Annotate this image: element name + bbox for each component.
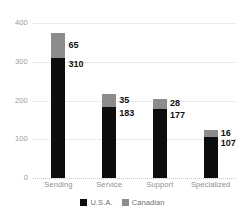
y-tick-label-200: 200 <box>15 97 28 105</box>
gridline-baseline-0 <box>33 178 236 179</box>
bar-segment-canadian[interactable] <box>153 99 167 110</box>
legend-item-usa[interactable]: U.S.A. <box>80 199 112 207</box>
legend-swatch-canadian-icon <box>122 199 129 206</box>
bar-segment-canadian[interactable] <box>102 94 116 108</box>
data-label-canadian-specialized: 16 <box>221 129 231 138</box>
bar-group-support[interactable] <box>153 99 167 178</box>
bar-segment-usa[interactable] <box>51 58 65 178</box>
gridline-400 <box>33 23 236 24</box>
bar-group-sending[interactable] <box>51 33 65 178</box>
bar-segment-usa[interactable] <box>102 107 116 178</box>
y-tick-label-100: 100 <box>15 136 28 144</box>
bar-group-specialized[interactable] <box>204 130 218 178</box>
bar-segment-usa[interactable] <box>204 137 218 178</box>
data-label-canadian-service: 35 <box>119 96 129 105</box>
legend-item-canadian[interactable]: Canadian <box>122 199 165 207</box>
y-tick-label-400: 400 <box>15 19 28 27</box>
y-tick-label-0: 0 <box>24 174 28 182</box>
bar-segment-canadian[interactable] <box>51 33 65 58</box>
data-label-usa-sending: 310 <box>68 60 83 69</box>
legend-label-usa: U.S.A. <box>90 199 112 207</box>
x-axis: Sending Service Support Specialized <box>33 181 236 195</box>
legend-label-canadian: Canadian <box>132 199 165 207</box>
legend-swatch-usa-icon <box>80 199 87 206</box>
bar-chart: 400 300 200 100 0 65 310 35 <box>0 0 245 219</box>
y-axis: 400 300 200 100 0 <box>0 23 28 178</box>
x-tick-label-support: Support <box>146 181 173 189</box>
bar-segment-usa[interactable] <box>153 109 167 178</box>
y-tick-label-300: 300 <box>15 58 28 66</box>
data-label-canadian-support: 28 <box>170 99 180 108</box>
bar-group-service[interactable] <box>102 94 116 178</box>
x-tick-label-specialized: Specialized <box>191 181 230 189</box>
data-label-canadian-sending: 65 <box>68 41 78 50</box>
legend: U.S.A. Canadian <box>0 199 245 207</box>
x-tick-label-sending: Sending <box>44 181 72 189</box>
plot-area: 65 310 35 183 28 177 16 107 <box>33 23 236 178</box>
data-label-usa-service: 183 <box>119 109 134 118</box>
data-label-usa-specialized: 107 <box>221 139 236 148</box>
x-tick-label-service: Service <box>96 181 122 189</box>
data-label-usa-support: 177 <box>170 111 185 120</box>
